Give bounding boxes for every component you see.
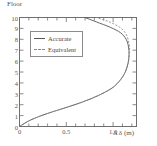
legend-line-solid-icon: [34, 38, 45, 39]
legend-item-equivalent: Equivalent: [34, 44, 76, 55]
legend-label: Accurate: [48, 35, 71, 42]
legend-line-dashed-icon: [34, 49, 45, 50]
x-axis-title: Δ δ (m): [113, 129, 134, 137]
chart-figure: Floor 012345678910 00.51.0 Accurate Equi…: [0, 0, 157, 146]
legend: Accurate Equivalent: [30, 31, 83, 57]
plot-canvas: [0, 0, 157, 146]
legend-item-accurate: Accurate: [34, 33, 71, 44]
legend-label: Equivalent: [48, 46, 76, 53]
